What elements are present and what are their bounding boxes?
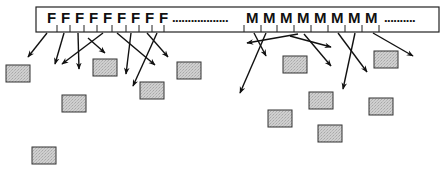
object-box xyxy=(140,82,164,99)
diagram-canvas xyxy=(0,0,444,175)
pointer-arrow xyxy=(126,33,131,74)
slot-label-f: F xyxy=(159,10,168,26)
slot-label-m: M xyxy=(348,10,361,26)
slot-label-m: M xyxy=(365,10,378,26)
object-box xyxy=(177,62,201,79)
ellipsis-dots: .......... xyxy=(384,10,415,26)
pointer-arrow xyxy=(338,33,367,72)
slot-label-m: M xyxy=(263,10,276,26)
object-box xyxy=(309,92,333,109)
slot-label-m: M xyxy=(297,10,310,26)
slot-label-m: M xyxy=(331,10,344,26)
object-box xyxy=(318,125,342,142)
slot-label-f: F xyxy=(145,10,154,26)
slot-label-m: M xyxy=(246,10,259,26)
object-box xyxy=(6,65,30,82)
slot-label-f: F xyxy=(131,10,140,26)
slot-label-m: M xyxy=(314,10,327,26)
slot-label-f: F xyxy=(103,10,112,26)
object-box xyxy=(369,98,393,115)
object-box xyxy=(62,95,86,112)
object-box xyxy=(283,56,307,73)
object-box xyxy=(32,147,56,164)
pointer-arrow xyxy=(304,34,331,66)
pointer-arrow xyxy=(147,33,168,57)
slot-label-f: F xyxy=(89,10,98,26)
pointer-arrows xyxy=(28,33,413,93)
object-boxes xyxy=(6,51,398,164)
pointer-arrow xyxy=(28,33,47,57)
slot-label-f: F xyxy=(47,10,56,26)
pointer-arrow xyxy=(88,38,105,53)
slot-label-m: M xyxy=(280,10,293,26)
object-box xyxy=(268,110,292,127)
ellipsis-dots: .................. xyxy=(172,10,228,26)
slot-label-f: F xyxy=(61,10,70,26)
slot-label-f: F xyxy=(75,10,84,26)
pointer-arrow xyxy=(55,33,64,64)
object-box xyxy=(374,51,398,68)
object-box xyxy=(93,59,117,76)
allocation-diagram: FFFFFFFFF..................MMMMMMMM.....… xyxy=(0,0,444,175)
slot-label-f: F xyxy=(117,10,126,26)
